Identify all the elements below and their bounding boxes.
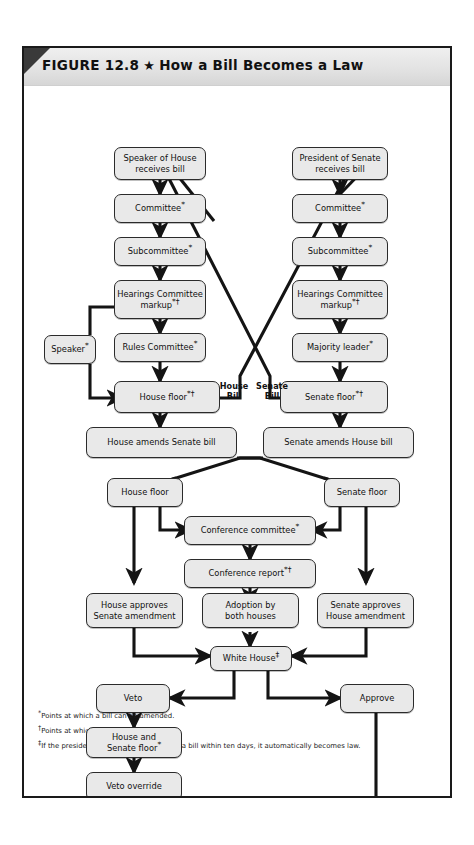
node-president-of-senate[interactable]: President of Senatereceives bill	[292, 147, 388, 180]
edge-label-house-bill: HouseBill	[214, 382, 254, 401]
node-marks: *	[369, 340, 373, 349]
node-house-approves-senate-amendment[interactable]: House approvesSenate amendment	[86, 593, 183, 628]
node-label: House amends Senate bill	[107, 437, 215, 447]
node-label: House floor	[121, 487, 168, 497]
node-veto[interactable]: Veto	[96, 684, 170, 713]
node-label: House approves	[101, 600, 168, 610]
node-majority-leader[interactable]: Majority leader*	[292, 333, 388, 362]
node-label: Hearings Committee	[297, 289, 383, 299]
node-label: Committee	[315, 203, 361, 213]
node-label: Veto override	[106, 781, 162, 791]
node-marks: *	[181, 201, 185, 210]
figure-frame: FIGURE 12.8★How a Bill Becomes a Law	[22, 46, 452, 798]
node-label: House floor	[140, 392, 187, 402]
node-marks: *†	[172, 297, 180, 306]
node-senate-amends-house-bill[interactable]: Senate amends House bill	[263, 427, 414, 458]
node-marks: *	[296, 523, 300, 532]
node-marks: *	[368, 244, 372, 253]
edge-label-senate-bill: SenateBill	[250, 382, 294, 401]
node-speaker[interactable]: Speaker*	[44, 335, 96, 364]
flowchart-canvas: Speaker of Housereceives bill Committee*…	[24, 86, 452, 798]
node-house-floor[interactable]: House floor*†	[114, 381, 220, 413]
node-marks: *†	[352, 297, 360, 306]
node-senate-committee[interactable]: Committee*	[292, 194, 388, 223]
node-marks: *†	[284, 566, 292, 575]
node-house-floor-second[interactable]: House floor	[107, 478, 183, 507]
node-marks: *	[188, 244, 192, 253]
node-label: Senate amends House bill	[284, 437, 392, 447]
node-marks: *	[157, 740, 161, 749]
node-label: Speaker of House	[123, 153, 196, 163]
node-white-house[interactable]: White House‡	[210, 646, 292, 671]
node-label-2: markup	[320, 300, 352, 310]
node-label: White House	[223, 653, 276, 663]
node-label: Committee	[135, 203, 181, 213]
node-house-committee[interactable]: Committee*	[114, 194, 206, 223]
node-marks: *	[194, 340, 198, 349]
node-marks: ‡	[276, 651, 280, 660]
node-label-2: receives bill	[135, 164, 184, 174]
figure-title: FIGURE 12.8★How a Bill Becomes a Law	[42, 57, 364, 73]
node-house-hearings-committee[interactable]: Hearings Committeemarkup*†	[114, 280, 206, 319]
node-marks: *	[361, 201, 365, 210]
node-label-2: House amendment	[326, 611, 405, 621]
node-senate-floor-second[interactable]: Senate floor	[324, 478, 400, 507]
node-label: Senate floor	[305, 392, 356, 402]
node-label: Subcommittee	[128, 246, 189, 256]
node-label: Speaker	[51, 344, 85, 354]
node-veto-override[interactable]: Veto override	[86, 772, 182, 798]
node-rules-committee[interactable]: Rules Committee*	[114, 333, 206, 362]
node-adoption-by-both-houses[interactable]: Adoption byboth houses	[202, 593, 299, 628]
node-senate-subcommittee[interactable]: Subcommittee*	[292, 237, 388, 266]
node-label: Rules Committee	[123, 342, 194, 352]
node-conference-report[interactable]: Conference report*†	[184, 559, 316, 588]
node-label: Hearings Committee	[117, 289, 203, 299]
node-label-2: Senate floor	[107, 743, 158, 753]
node-label: Subcommittee	[308, 246, 369, 256]
star-icon: ★	[143, 58, 155, 73]
node-label: Majority leader	[307, 342, 369, 352]
node-label: President of Senate	[299, 153, 380, 163]
node-label: Senate approves	[331, 600, 401, 610]
node-approve[interactable]: Approve	[340, 684, 414, 713]
node-senate-floor[interactable]: Senate floor*†	[280, 381, 388, 413]
footnote-text: Points at which a bill can be amended.	[41, 712, 174, 720]
node-label: Conference committee	[201, 525, 296, 535]
node-label: Approve	[360, 693, 395, 703]
node-label-2: receives bill	[315, 164, 364, 174]
node-marks: *†	[187, 389, 195, 398]
node-house-amends-senate-bill[interactable]: House amends Senate bill	[86, 427, 237, 458]
node-label: Adoption by	[226, 600, 276, 610]
node-label-2: markup	[140, 300, 172, 310]
node-marks: *	[85, 342, 89, 351]
node-senate-approves-house-amendment[interactable]: Senate approvesHouse amendment	[317, 593, 414, 628]
figure-title-text: How a Bill Becomes a Law	[159, 57, 363, 73]
figure-number: FIGURE 12.8	[42, 57, 139, 73]
node-label-2: both houses	[225, 611, 276, 621]
node-label: Senate floor	[337, 487, 388, 497]
node-label: House and	[112, 732, 156, 742]
node-label: Conference report	[209, 568, 284, 578]
node-house-subcommittee[interactable]: Subcommittee*	[114, 237, 206, 266]
node-senate-hearings-committee[interactable]: Hearings Committeemarkup*†	[292, 280, 388, 319]
node-conference-committee[interactable]: Conference committee*	[184, 516, 316, 545]
node-label-2: Senate amendment	[93, 611, 175, 621]
node-label: Veto	[124, 693, 142, 703]
node-marks: *†	[356, 389, 364, 398]
node-house-and-senate-floor[interactable]: House andSenate floor*	[86, 727, 182, 758]
node-speaker-of-house[interactable]: Speaker of Housereceives bill	[114, 147, 206, 180]
